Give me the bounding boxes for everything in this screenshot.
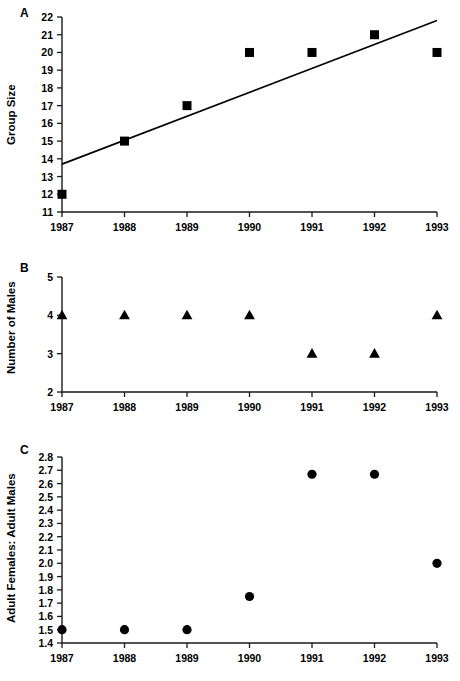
x-tick-label: 1991 <box>300 221 323 233</box>
plot-area-c <box>0 435 460 681</box>
data-point <box>182 625 191 634</box>
y-tick-label: 1.6 <box>0 610 53 622</box>
panel-b: B Number of Males 5432198719881989199019… <box>0 250 460 435</box>
panel-c: C Adult Females: Adult Males 2.82.72.62.… <box>0 435 460 681</box>
data-point <box>57 625 66 634</box>
data-point <box>244 310 255 320</box>
x-tick-label: 1991 <box>300 652 323 664</box>
data-point <box>120 625 129 634</box>
data-point <box>245 48 254 57</box>
y-tick-label: 16 <box>0 117 53 129</box>
x-tick-label: 1993 <box>425 652 448 664</box>
x-tick-label: 1991 <box>300 401 323 413</box>
axis-spine <box>62 277 437 392</box>
y-tick-label: 2.0 <box>0 557 53 569</box>
x-tick-label: 1989 <box>175 221 198 233</box>
x-tick-label: 1990 <box>238 401 261 413</box>
y-tick-label: 11 <box>0 206 53 218</box>
y-tick-label: 22 <box>0 11 53 23</box>
y-tick-label: 2 <box>0 386 53 398</box>
y-tick-label: 2.8 <box>0 451 53 463</box>
axis-spine <box>62 17 437 212</box>
y-tick-label: 1.7 <box>0 597 53 609</box>
x-tick-label: 1993 <box>425 221 448 233</box>
y-tick-label: 17 <box>0 100 53 112</box>
plot-c-svg <box>0 435 460 681</box>
data-point <box>307 348 318 358</box>
data-point <box>432 310 443 320</box>
panel-a: A Group Size 222120191817161514131211198… <box>0 0 460 250</box>
x-tick-label: 1993 <box>425 401 448 413</box>
y-tick-label: 20 <box>0 46 53 58</box>
x-tick-label: 1987 <box>50 652 73 664</box>
x-tick-label: 1992 <box>363 221 386 233</box>
y-tick-label: 1.5 <box>0 624 53 636</box>
y-tick-label: 1.9 <box>0 571 53 583</box>
x-tick-label: 1988 <box>113 221 136 233</box>
data-point <box>308 48 317 57</box>
data-point <box>370 30 379 39</box>
y-tick-label: 2.6 <box>0 478 53 490</box>
y-tick-label: 18 <box>0 82 53 94</box>
data-point <box>120 137 129 146</box>
data-point <box>369 348 380 358</box>
x-tick-label: 1990 <box>238 652 261 664</box>
y-tick-label: 19 <box>0 64 53 76</box>
data-point <box>182 310 193 320</box>
x-tick-label: 1992 <box>363 652 386 664</box>
y-tick-label: 13 <box>0 171 53 183</box>
y-tick-label: 2.1 <box>0 544 53 556</box>
data-point <box>370 470 379 479</box>
x-tick-label: 1988 <box>113 652 136 664</box>
y-tick-label: 2.5 <box>0 491 53 503</box>
data-point <box>245 592 254 601</box>
x-tick-label: 1987 <box>50 401 73 413</box>
y-tick-label: 21 <box>0 29 53 41</box>
y-tick-label: 2.2 <box>0 531 53 543</box>
axis-spine <box>62 457 437 643</box>
y-tick-label: 2.7 <box>0 464 53 476</box>
y-tick-label: 15 <box>0 135 53 147</box>
y-tick-label: 1.4 <box>0 637 53 649</box>
x-tick-label: 1990 <box>238 221 261 233</box>
y-tick-label: 12 <box>0 188 53 200</box>
y-tick-label: 3 <box>0 348 53 360</box>
y-tick-label: 2.3 <box>0 517 53 529</box>
data-point <box>433 48 442 57</box>
x-tick-label: 1992 <box>363 401 386 413</box>
data-point <box>119 310 130 320</box>
trend-line <box>62 21 437 165</box>
x-tick-label: 1988 <box>113 401 136 413</box>
data-point <box>58 190 67 199</box>
data-point <box>307 470 316 479</box>
x-tick-label: 1989 <box>175 652 198 664</box>
y-tick-label: 14 <box>0 153 53 165</box>
data-point <box>57 310 68 320</box>
y-tick-label: 1.8 <box>0 584 53 596</box>
plot-a-svg <box>0 0 460 250</box>
data-point <box>432 559 441 568</box>
data-point <box>183 101 192 110</box>
x-tick-label: 1987 <box>50 221 73 233</box>
plot-area-a <box>0 0 460 250</box>
y-tick-label: 5 <box>0 271 53 283</box>
x-tick-label: 1989 <box>175 401 198 413</box>
y-tick-label: 4 <box>0 309 53 321</box>
y-tick-label: 2.4 <box>0 504 53 516</box>
